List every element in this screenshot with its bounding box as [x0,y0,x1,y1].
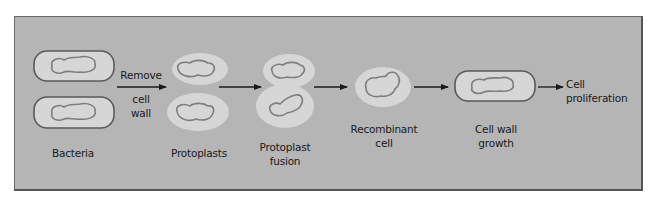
stage-label-wall-growth-1: Cell wall [458,123,534,136]
stage-label-protoplasts: Protoplasts [164,147,234,160]
stage-label-recombinant-1: Recombinant [346,123,422,136]
outcome-label-2: proliferation [566,92,627,105]
cell-with-new-wall [455,71,535,101]
protoplast-top [172,53,228,85]
outcome-label-1: Cell [566,78,585,91]
recombinant-cell [355,67,411,107]
stage-label-protoplast-fusion-2: fusion [250,155,320,168]
protoplast-fusion-diagram [0,0,657,199]
step-label-wall: wall [116,107,166,120]
protoplast-bottom [167,93,229,131]
stage-label-bacteria: Bacteria [40,147,106,160]
bacterium-bottom [34,97,114,128]
bacterium-top [34,51,114,81]
stage-label-protoplast-fusion-1: Protoplast [250,141,320,154]
stage-label-recombinant-2: cell [346,137,422,150]
step-label-remove: Remove [116,69,166,82]
step-label-cell: cell [116,93,166,106]
fusing-protoplasts [256,54,315,128]
stage-label-wall-growth-2: growth [458,137,534,150]
